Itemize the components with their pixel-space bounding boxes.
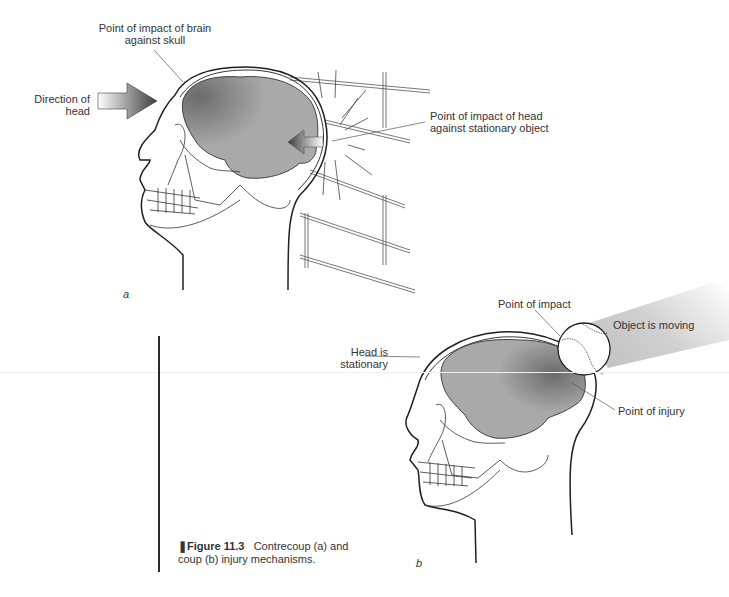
label-head-is-stationary: Head is stationary — [320, 346, 388, 370]
diagram-artwork — [0, 0, 729, 597]
label-brain-impact-skull: Point of impact of brain against skull — [95, 22, 215, 46]
direction-arrow — [98, 83, 157, 119]
label-point-of-injury: Point of injury — [618, 405, 685, 417]
caption-marker-icon: ❚ — [178, 540, 187, 552]
impact-burst — [318, 70, 372, 200]
caption-rule — [158, 336, 160, 572]
panel-a — [98, 50, 430, 293]
panel-a-letter: a — [123, 288, 129, 300]
panel-b-letter: b — [416, 557, 422, 569]
label-object-is-moving: Object is moving — [613, 319, 694, 331]
caption-text-1: Contrecoup (a) and — [254, 540, 349, 552]
label-head-impact-object: Point of impact of head against stationa… — [430, 110, 590, 134]
label-point-of-impact: Point of impact — [498, 298, 571, 310]
baseball — [558, 323, 610, 375]
label-direction-of-head: Direction of head — [10, 93, 90, 117]
page-hairline — [0, 372, 729, 373]
figure-caption: ❚Figure 11.3 Contrecoup (a) and coup (b)… — [178, 540, 348, 566]
caption-line-1: ❚Figure 11.3 Contrecoup (a) and — [178, 540, 348, 553]
caption-line-2: coup (b) injury mechanisms. — [178, 553, 348, 566]
brain-a — [182, 77, 317, 179]
figure-number: Figure 11.3 — [187, 540, 244, 552]
